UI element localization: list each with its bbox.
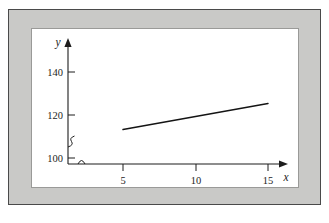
- x-tick-label-10: 10: [191, 175, 202, 186]
- x-tick-5: 5: [120, 164, 125, 186]
- y-tick-label-120: 120: [47, 110, 63, 121]
- chart-canvas: 140 120 100 5 10 15: [32, 29, 299, 188]
- y-axis-break-symbol: [68, 136, 75, 147]
- x-tick-label-5: 5: [120, 175, 125, 186]
- x-axis: [68, 160, 288, 167]
- x-axis-arrowhead: [279, 160, 288, 167]
- y-tick-140: 140: [47, 67, 75, 78]
- x-axis-label: x: [282, 171, 289, 183]
- x-tick-15: 15: [263, 164, 274, 186]
- figure-frame: 140 120 100 5 10 15: [8, 9, 321, 205]
- y-axis-arrowhead: [64, 38, 71, 47]
- x-tick-label-15: 15: [263, 175, 274, 186]
- y-tick-label-140: 140: [47, 67, 63, 78]
- plot-panel: 140 120 100 5 10 15: [31, 28, 299, 188]
- x-tick-10: 10: [191, 164, 202, 186]
- trend-line: [123, 104, 268, 130]
- y-tick-120: 120: [47, 110, 75, 121]
- y-tick-100: 100: [47, 153, 75, 164]
- y-axis-label: y: [54, 36, 61, 49]
- y-tick-label-100: 100: [47, 153, 63, 164]
